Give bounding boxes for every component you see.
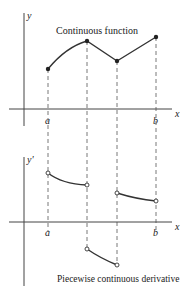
continuous-function-curve bbox=[48, 37, 156, 69]
top-title: Continuous function bbox=[56, 25, 138, 36]
top-y-label: y bbox=[26, 10, 32, 21]
guide-lines bbox=[48, 37, 156, 265]
derivative-open-points bbox=[46, 171, 158, 267]
bottom-axes bbox=[9, 157, 172, 286]
bottom-tick-a: a bbox=[45, 227, 50, 238]
diagram: y x a b Continuous function y' x a b bbox=[0, 0, 184, 291]
top-tick-b: b bbox=[153, 115, 158, 126]
top-x-label: x bbox=[174, 108, 180, 119]
top-tick-a: a bbox=[45, 115, 50, 126]
bottom-x-label: x bbox=[174, 221, 180, 232]
derivative-curves bbox=[48, 173, 156, 265]
bottom-tick-b: b bbox=[153, 227, 158, 238]
bottom-y-label: y' bbox=[26, 154, 34, 165]
bottom-caption: Piecewise continuous derivative bbox=[57, 274, 179, 284]
function-points bbox=[46, 35, 158, 71]
